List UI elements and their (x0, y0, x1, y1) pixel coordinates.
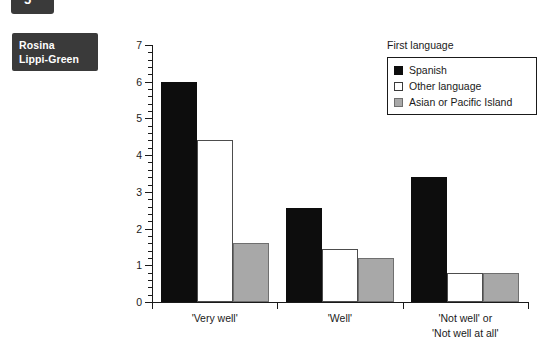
y-tick-label: 1 (128, 260, 142, 270)
legend-item-label: Other language (409, 80, 481, 92)
y-tick-label: 2 (128, 224, 142, 234)
y-tick-label: 7 (128, 40, 142, 50)
legend-swatch-icon (394, 98, 403, 107)
y-tick-major (145, 82, 152, 83)
y-axis-labels: 01234567 (126, 0, 142, 347)
bar (233, 243, 269, 302)
legend-item-label: Spanish (409, 64, 447, 76)
bar (197, 140, 233, 302)
legend-swatch-icon (394, 66, 403, 75)
y-tick-major (145, 155, 152, 156)
legend-item: Asian or Pacific Island (394, 95, 530, 109)
y-tick-label: 4 (128, 150, 142, 160)
x-category-label: 'Very well' (152, 311, 277, 326)
bar (447, 273, 483, 302)
bar (161, 82, 197, 302)
x-category-label: 'Well' (277, 311, 402, 326)
y-tick-major (145, 229, 152, 230)
bar (322, 249, 358, 302)
x-axis-line (152, 302, 529, 303)
x-category-label: 'Not well' or'Not well at all' (403, 311, 528, 341)
x-category-label-line: 'Very well' (152, 311, 277, 326)
legend-item: Spanish (394, 63, 530, 77)
y-tick-major (145, 302, 152, 303)
legend-title: First language (387, 39, 537, 52)
legend-swatch-icon (394, 82, 403, 91)
x-category-label-line: 'Well' (277, 311, 402, 326)
y-tick-major (145, 118, 152, 119)
y-tick-major (145, 45, 152, 46)
legend: First language SpanishOther languageAsia… (387, 39, 537, 115)
y-tick-label: 5 (128, 113, 142, 123)
bar (358, 258, 394, 302)
y-tick-label: 0 (128, 297, 142, 307)
x-tick (528, 302, 529, 309)
legend-item: Other language (394, 79, 530, 93)
y-tick-label: 3 (128, 187, 142, 197)
bar (286, 208, 322, 302)
x-tick (277, 302, 278, 309)
bar-chart: 01234567 'Very well''Well''Not well' or'… (0, 0, 542, 347)
bar (483, 273, 519, 302)
x-tick (152, 302, 153, 309)
x-tick (403, 302, 404, 309)
bar (411, 177, 447, 302)
legend-box: SpanishOther languageAsian or Pacific Is… (387, 57, 537, 115)
x-category-label-line: 'Not well' or (403, 311, 528, 326)
x-category-label-line: 'Not well at all' (403, 326, 528, 341)
y-tick-label: 6 (128, 77, 142, 87)
legend-item-label: Asian or Pacific Island (409, 96, 512, 108)
y-tick-major (145, 265, 152, 266)
y-tick-major (145, 192, 152, 193)
